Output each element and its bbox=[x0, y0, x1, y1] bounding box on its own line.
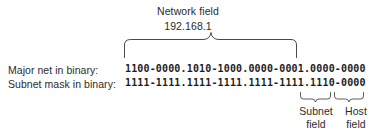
diagram-canvas: Network field 192.168.1 Major net in bin… bbox=[0, 0, 376, 137]
subnet-field-label-line1: Subnet bbox=[289, 106, 343, 117]
subnet-field-brace bbox=[301, 93, 331, 103]
host-field-brace bbox=[335, 93, 364, 103]
network-field-value: 192.168.1 bbox=[0, 21, 376, 32]
network-field-brace bbox=[125, 33, 297, 58]
subnet-mask-binary-value: 1111-1111.1111-1111.1111-1111.1110-0000 bbox=[125, 78, 366, 88]
host-field-label-line2: field bbox=[336, 119, 376, 130]
network-field-label: Network field bbox=[0, 6, 376, 17]
major-net-binary-value: 1100-0000.1010-1000.0000-0001.0000-0000 bbox=[125, 64, 366, 74]
subnet-mask-row-label: Subnet mask in binary: bbox=[8, 79, 116, 90]
major-net-row-label: Major net in binary: bbox=[8, 65, 98, 76]
subnet-field-label-line2: field bbox=[289, 119, 343, 130]
host-field-label-line1: Host bbox=[336, 106, 376, 117]
